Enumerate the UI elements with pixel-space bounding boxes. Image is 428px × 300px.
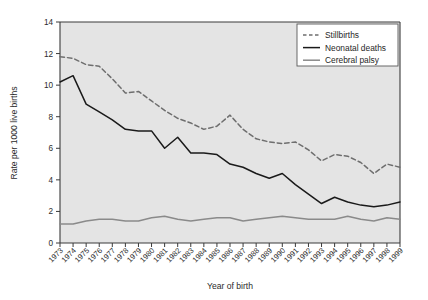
line-chart: 02468101214 1973197419751976197719781979… [0, 0, 428, 300]
y-axis-title: Rate per 1000 live births [9, 86, 19, 179]
chart-legend[interactable]: StillbirthsNeonatal deathsCerebral palsy [297, 24, 398, 66]
y-tick-label: 12 [44, 50, 54, 59]
y-tick-label: 4 [48, 176, 53, 185]
x-axis-title-group: Year of birth [207, 281, 253, 291]
legend-label-stillbirths: Stillbirths [325, 30, 359, 40]
y-axis-ticks: 02468101214 [44, 18, 60, 248]
x-axis-ticks: 1973197419751976197719781979198019811982… [47, 243, 405, 264]
y-tick-label: 14 [44, 18, 54, 27]
legend-label-neonatal-deaths: Neonatal deaths [325, 43, 386, 53]
chart-container: 02468101214 1973197419751976197719781979… [0, 0, 428, 300]
y-tick-label: 0 [48, 239, 53, 248]
x-axis-title: Year of birth [207, 281, 253, 291]
y-tick-label: 2 [48, 207, 53, 216]
x-tick-label: 1999 [387, 246, 405, 264]
y-tick-label: 6 [48, 144, 53, 153]
y-tick-label: 8 [48, 113, 53, 122]
y-tick-label: 10 [44, 81, 54, 90]
y-axis-title-group: Rate per 1000 live births [9, 86, 19, 179]
legend-label-cerebral-palsy: Cerebral palsy [325, 55, 380, 65]
